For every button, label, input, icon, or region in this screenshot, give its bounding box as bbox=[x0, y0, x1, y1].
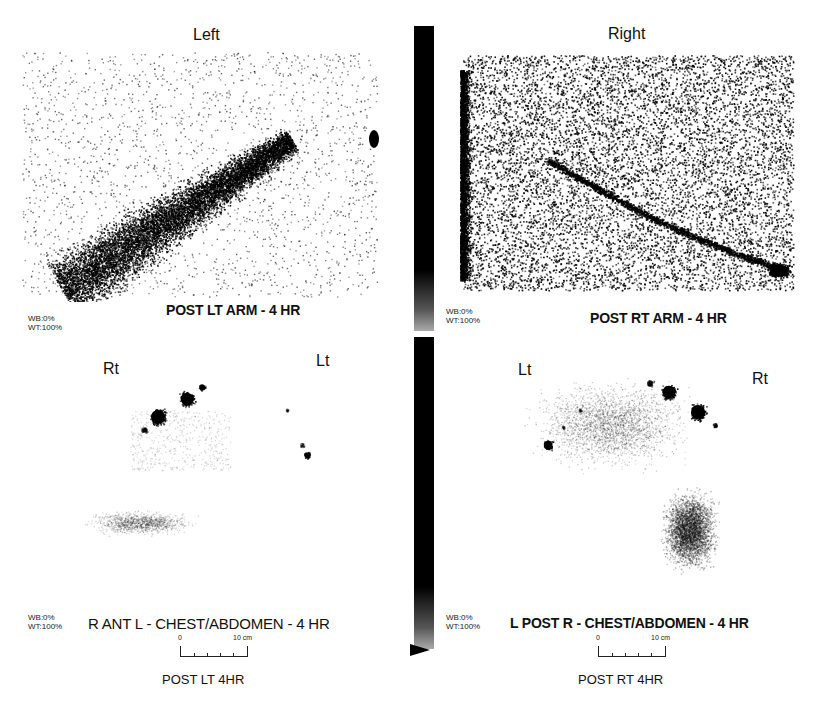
scale-end-label: 10 cm bbox=[651, 634, 670, 641]
scintigraphy-image-left-arm bbox=[22, 52, 382, 302]
wb-label: WB:0% WT:100% bbox=[28, 314, 62, 332]
scale-end-label: 10 cm bbox=[233, 634, 252, 641]
wt-value: WT:100% bbox=[28, 622, 62, 631]
scintigraphy-image-chest-anterior bbox=[30, 375, 390, 605]
scale-start-label: 0 bbox=[178, 634, 182, 641]
image-caption: R ANT L - CHEST/ABDOMEN - 4 HR bbox=[88, 615, 330, 632]
wb-value: WB:0% bbox=[446, 613, 480, 622]
image-caption: POST RT ARM - 4 HR bbox=[590, 310, 727, 326]
level-marker-icon[interactable] bbox=[410, 644, 430, 656]
image-caption: L POST R - CHEST/ABDOMEN - 4 HR bbox=[510, 615, 749, 631]
wb-value: WB:0% bbox=[446, 307, 480, 316]
panel-title-right: Right bbox=[608, 25, 645, 43]
scintigraphy-image-right-arm bbox=[458, 50, 798, 295]
wb-label: WB:0% WT:100% bbox=[446, 613, 480, 631]
wb-value: WB:0% bbox=[28, 613, 62, 622]
color-scale-bar-bottom bbox=[414, 337, 434, 649]
scintigraphy-image-chest-posterior bbox=[460, 365, 830, 605]
wt-value: WT:100% bbox=[446, 622, 480, 631]
view-subtitle: POST RT 4HR bbox=[578, 672, 663, 687]
view-subtitle: POST LT 4HR bbox=[162, 672, 244, 687]
scale-bar bbox=[180, 646, 248, 657]
wt-value: WT:100% bbox=[446, 316, 480, 325]
orientation-label-right: Lt bbox=[316, 352, 329, 370]
wt-value: WT:100% bbox=[28, 323, 62, 332]
scale-start-label: 0 bbox=[596, 634, 600, 641]
panel-title-left: Left bbox=[193, 26, 220, 44]
image-caption: POST LT ARM - 4 HR bbox=[166, 302, 300, 318]
color-scale-bar-top bbox=[414, 26, 434, 331]
wb-label: WB:0% WT:100% bbox=[28, 613, 62, 631]
scale-bar bbox=[598, 646, 666, 657]
wb-label: WB:0% WT:100% bbox=[446, 307, 480, 325]
wb-value: WB:0% bbox=[28, 314, 62, 323]
